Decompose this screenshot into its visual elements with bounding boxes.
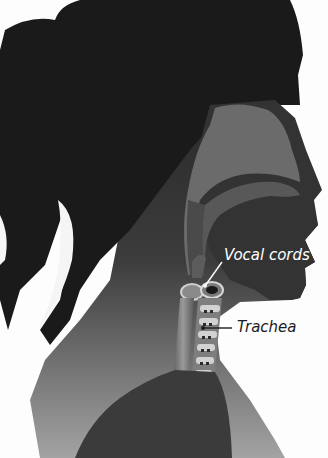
vocal-cords-leader-dot (203, 284, 207, 288)
trachea-leader-dot (201, 326, 205, 330)
vocal-cords-label: Vocal cords (224, 246, 310, 264)
trachea-label: Trachea (237, 318, 297, 336)
larynx-ring-left (181, 284, 203, 300)
vocal-tract-diagram: Vocal cords Trachea (0, 0, 328, 458)
anatomy-illustration (0, 0, 328, 458)
vocal-cords-opening (206, 286, 218, 294)
